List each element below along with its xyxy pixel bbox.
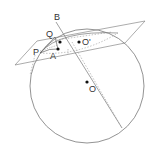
point-O-prime xyxy=(77,40,80,43)
label-O: O xyxy=(89,84,96,94)
point-top xyxy=(58,40,61,43)
label-B: B xyxy=(54,12,60,22)
label-Q: Q xyxy=(46,29,53,39)
diameter-dashed xyxy=(72,42,122,128)
point-A xyxy=(56,47,59,50)
label-O-prime: O' xyxy=(82,37,91,47)
label-A: A xyxy=(50,51,56,61)
segment-QA xyxy=(55,37,58,49)
sphere-plane-diagram: B Q P A O' O xyxy=(0,0,157,152)
label-P: P xyxy=(33,47,39,57)
